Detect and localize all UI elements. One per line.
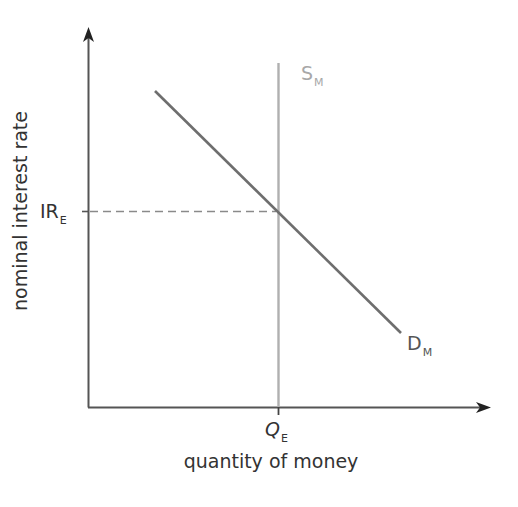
equilibrium-rate-label: IRE xyxy=(40,202,67,221)
x-axis-label: quantity of money xyxy=(0,452,518,471)
money-market-diagram xyxy=(0,0,518,507)
supply-curve-label: SM xyxy=(301,64,324,83)
y-axis-label: nominal interest rate xyxy=(11,111,30,311)
demand-curve-label: DM xyxy=(407,334,432,353)
equilibrium-quantity-label: QE xyxy=(265,420,288,439)
